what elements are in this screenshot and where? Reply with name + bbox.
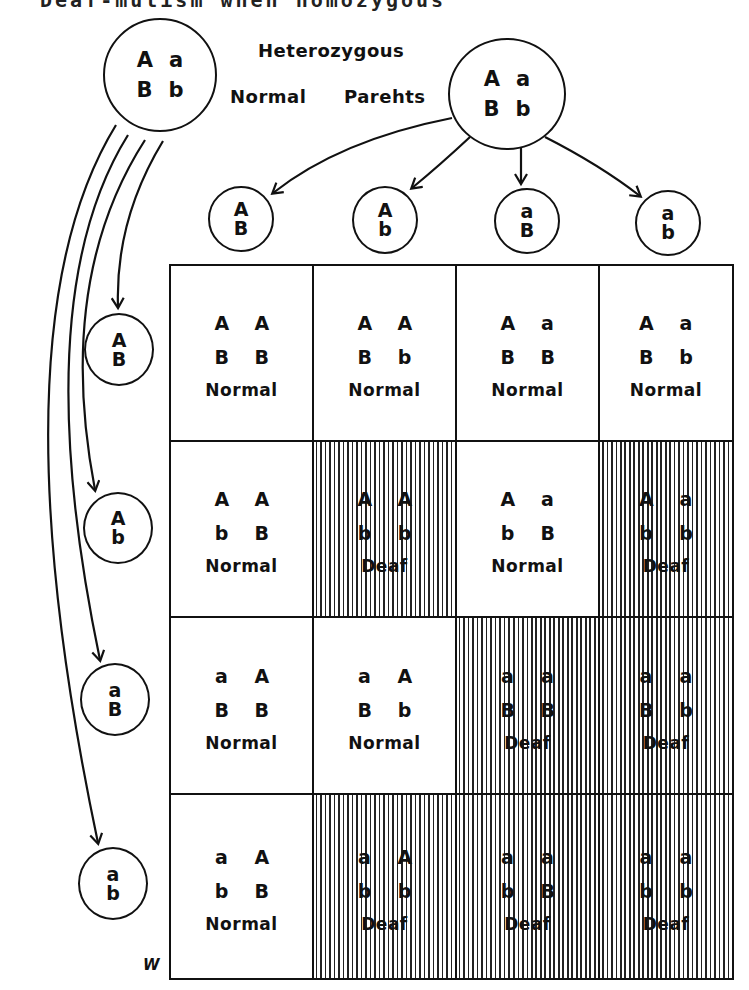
allele-letter: A (639, 482, 653, 516)
punnett-cell-deaf: aA bb Deaf (314, 795, 457, 978)
punnett-cell: Aa Bb Normal (600, 266, 732, 442)
allele-letter: a (215, 659, 229, 693)
allele-letter: B (255, 516, 269, 550)
allele-letter: B (639, 340, 653, 374)
allele-letter: b (661, 223, 675, 242)
phenotype-label: Deaf (643, 733, 690, 753)
phenotype-label: Normal (205, 733, 277, 753)
allele-letter: A (255, 840, 269, 874)
allele-letter: A (484, 64, 500, 94)
allele-letter: a (501, 840, 515, 874)
allele-letter: b (398, 693, 412, 727)
punnett-cell-deaf: Aa bb Deaf (600, 442, 732, 618)
allele-letter: b (501, 516, 515, 550)
allele-letter: A (501, 482, 515, 516)
allele-letter: b (679, 516, 693, 550)
allele-letter: a (639, 840, 653, 874)
phenotype-label: Normal (491, 380, 563, 400)
allele-letter: a (358, 840, 372, 874)
phenotype-label: Deaf (504, 733, 551, 753)
punnett-cell: aA BB Normal (171, 618, 314, 795)
punnett-cell-deaf: AA bb Deaf (314, 442, 457, 618)
heterozygous-label: Heterozygous (258, 40, 404, 61)
allele-letter: B (501, 693, 515, 727)
allele-letter: B (108, 700, 122, 719)
allele-letter: a (169, 45, 183, 75)
allele-letter: B (639, 693, 653, 727)
artist-signature: W (143, 956, 160, 974)
allele-letter: B (541, 516, 555, 550)
allele-letter: B (215, 693, 229, 727)
top-gamete-ab: ab (635, 190, 701, 256)
allele-letter: b (215, 874, 229, 908)
allele-letter: B (255, 874, 269, 908)
allele-letter: B (520, 221, 534, 240)
allele-letter: A (255, 306, 269, 340)
allele-letter: A (215, 482, 229, 516)
phenotype-label: Normal (348, 733, 420, 753)
allele-letter: b (358, 516, 372, 550)
allele-letter: a (541, 306, 555, 340)
allele-letter: b (378, 220, 392, 239)
allele-letter: A (398, 482, 412, 516)
allele-letter: b (501, 874, 515, 908)
allele-letter: A (501, 306, 515, 340)
allele-letter: B (215, 340, 229, 374)
phenotype-label: Normal (348, 380, 420, 400)
allele-letter: b (398, 340, 412, 374)
punnett-cell: aA bB Normal (171, 795, 314, 978)
allele-letter: A (112, 331, 127, 350)
allele-letter: A (215, 306, 229, 340)
punnett-cell: AA BB Normal (171, 266, 314, 442)
phenotype-label: Deaf (643, 914, 690, 934)
left-gamete-ab: ab (78, 847, 148, 920)
allele-letter: A (398, 840, 412, 874)
phenotype-label: Normal (630, 380, 702, 400)
allele-letter: a (358, 659, 372, 693)
phenotype-label: Normal (491, 556, 563, 576)
allele-letter: a (516, 64, 530, 94)
allele-letter: b (515, 94, 530, 124)
allele-letter: b (358, 874, 372, 908)
allele-letter: b (106, 884, 120, 903)
allele-letter: a (679, 840, 693, 874)
allele-letter: B (234, 219, 248, 238)
phenotype-label: Normal (205, 914, 277, 934)
allele-letter: a (639, 659, 653, 693)
punnett-cell-deaf: aa BB Deaf (457, 618, 600, 795)
allele-letter: A (639, 306, 653, 340)
phenotype-label: Deaf (361, 914, 408, 934)
normal-label: Normal (230, 86, 306, 107)
allele-letter: a (541, 840, 555, 874)
allele-letter: B (483, 94, 499, 124)
allele-letter: a (679, 659, 693, 693)
allele-letter: a (109, 681, 122, 700)
allele-letter: b (679, 340, 693, 374)
allele-letter: A (137, 45, 153, 75)
punnett-cell: Aa BB Normal (457, 266, 600, 442)
allele-letter: a (107, 865, 120, 884)
allele-letter: a (541, 482, 555, 516)
allele-letter: B (136, 75, 152, 105)
allele-letter: A (255, 659, 269, 693)
left-gamete-aB: aB (80, 663, 150, 736)
allele-letter: b (679, 693, 693, 727)
allele-letter: b (639, 516, 653, 550)
punnett-cell: AA Bb Normal (314, 266, 457, 442)
allele-letter: b (215, 516, 229, 550)
allele-letter: B (255, 340, 269, 374)
left-gamete-AB: AB (84, 313, 154, 386)
allele-letter: B (112, 350, 126, 369)
top-gamete-aB: aB (494, 188, 560, 254)
allele-letter: B (541, 874, 555, 908)
allele-letter: B (541, 693, 555, 727)
allele-letter: a (679, 482, 693, 516)
top-gamete-AB: AB (208, 186, 274, 252)
allele-letter: b (398, 516, 412, 550)
allele-letter: b (168, 75, 183, 105)
phenotype-label: Normal (205, 380, 277, 400)
punnett-cell-deaf: aa bB Deaf (457, 795, 600, 978)
punnett-square: AA BB Normal AA Bb Normal Aa BB Normal A… (169, 264, 734, 980)
allele-letter: B (541, 340, 555, 374)
allele-letter: b (111, 528, 125, 547)
